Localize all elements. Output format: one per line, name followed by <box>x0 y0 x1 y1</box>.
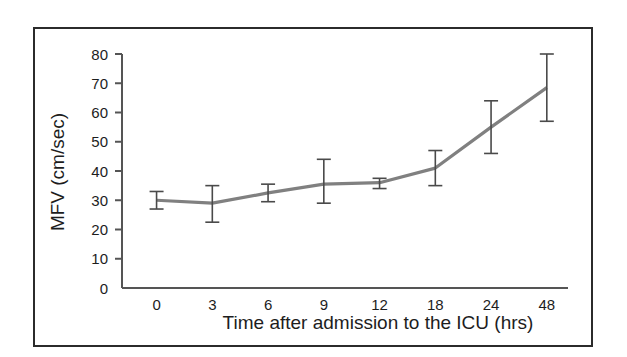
x-axis-tick-labels: 036912182448 <box>152 296 555 313</box>
y-tick-label: 60 <box>91 104 108 121</box>
y-tick-label: 30 <box>91 192 108 209</box>
y-tick-label: 40 <box>91 163 108 180</box>
y-tick-label: 20 <box>91 221 108 238</box>
x-tick-label: 18 <box>427 296 444 313</box>
figure-root: 01020304050607080 036912182448 MFV (cm/s… <box>0 0 627 357</box>
y-axis-title: MFV (cm/sec) <box>47 113 68 231</box>
y-tick-label: 70 <box>91 75 108 92</box>
x-axis-title: Time after admission to the ICU (hrs) <box>223 312 534 333</box>
mfv-line-chart: 01020304050607080 036912182448 MFV (cm/s… <box>0 0 627 357</box>
y-tick-label: 80 <box>91 46 108 63</box>
x-tick-label: 3 <box>208 296 216 313</box>
error-bar <box>540 54 554 121</box>
x-tick-label: 0 <box>152 296 160 313</box>
error-bar <box>317 159 331 203</box>
x-tick-label: 48 <box>538 296 555 313</box>
x-tick-label: 12 <box>371 296 388 313</box>
error-bars <box>150 54 554 222</box>
x-tick-label: 24 <box>483 296 500 313</box>
error-bar <box>484 101 498 154</box>
y-axis-tick-labels: 01020304050607080 <box>91 46 108 297</box>
y-tick-label: 0 <box>100 280 108 297</box>
x-tick-label: 9 <box>320 296 328 313</box>
x-tick-label: 6 <box>264 296 272 313</box>
y-tick-label: 50 <box>91 133 108 150</box>
y-axis-ticks <box>115 54 122 259</box>
y-tick-label: 10 <box>91 250 108 267</box>
